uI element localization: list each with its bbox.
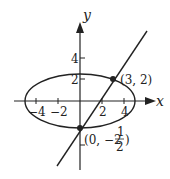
tick-label-neg4: −4 [28, 105, 46, 119]
point-label-suffix: ) [125, 133, 130, 147]
tick-label-neg2: −2 [50, 105, 68, 119]
tick-label-2: 2 [99, 105, 107, 119]
fraction-numerator: 1 [117, 125, 125, 139]
point-0-neg2.5 [77, 125, 83, 131]
graph: y x −4 −2 2 4 2 4 (3, 2) (0, −2 1 2 ) [0, 0, 170, 179]
x-axis-label: x [156, 93, 164, 109]
fraction-denominator: 2 [116, 140, 124, 154]
x-axis-arrow-icon [145, 97, 156, 105]
y-axis-arrow-icon [76, 22, 84, 33]
ytick-label-4: 4 [71, 52, 79, 66]
y-axis-label: y [82, 7, 92, 23]
point-label-3-2: (3, 2) [120, 73, 152, 87]
ytick-label-2: 2 [71, 73, 79, 87]
point-3-2 [110, 76, 116, 82]
tick-label-4: 4 [121, 105, 129, 119]
